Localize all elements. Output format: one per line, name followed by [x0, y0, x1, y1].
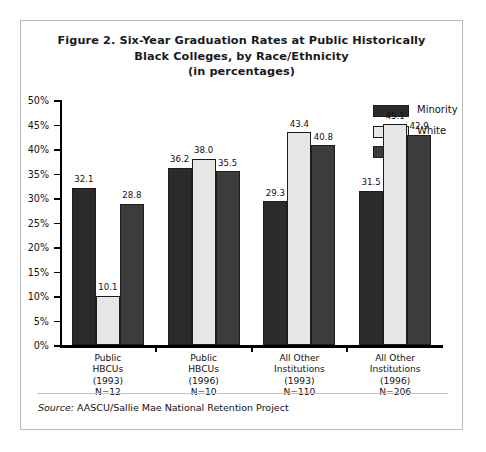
- y-tick-mark: [54, 296, 60, 298]
- y-tick-mark: [54, 247, 60, 249]
- x-category-line: All Other: [347, 353, 443, 364]
- y-tick-label: 0%: [34, 340, 49, 351]
- source-divider: [37, 393, 448, 394]
- bar-group: 31.545.142.9: [359, 100, 431, 345]
- bar-value-label: 45.1: [386, 111, 405, 121]
- x-category-line: Public: [156, 353, 252, 364]
- x-axis-separator: [155, 345, 157, 352]
- plot-area: 0%5%10%15%20%25%30%35%40%45%50% 32.110.1…: [60, 100, 443, 345]
- bar-all[interactable]: 42.9: [407, 135, 431, 345]
- x-category-line: Institutions: [347, 364, 443, 375]
- y-axis-line: [60, 100, 62, 345]
- x-category-line: Public: [60, 353, 156, 364]
- y-tick-mark: [54, 321, 60, 323]
- bar-value-label: 35.5: [218, 158, 237, 168]
- bar-value-label: 28.8: [122, 190, 141, 200]
- bar-minority[interactable]: 32.1: [72, 188, 96, 345]
- title-line-1: Figure 2. Six-Year Graduation Rates at P…: [21, 33, 462, 49]
- y-tick-mark: [54, 125, 60, 127]
- source-text: AASCU/Sallie Mae National Retention Proj…: [77, 402, 289, 413]
- y-tick-label: 45%: [28, 119, 49, 130]
- bar-minority[interactable]: 36.2: [168, 168, 192, 345]
- source-prefix: Source:: [38, 402, 74, 413]
- x-category-line: (1996): [156, 376, 252, 387]
- y-tick-mark: [54, 345, 60, 347]
- bar-all[interactable]: 40.8: [311, 145, 335, 345]
- x-category-line: HBCUs: [156, 364, 252, 375]
- bar-value-label: 31.5: [362, 177, 381, 187]
- x-category-label: All OtherInstitutions(1996)N=206: [347, 353, 443, 399]
- y-tick-label: 40%: [28, 144, 49, 155]
- y-tick-label: 10%: [28, 291, 49, 302]
- bar-group: 32.110.128.8: [72, 100, 144, 345]
- bar-value-label: 42.9: [410, 121, 429, 131]
- bar-value-label: 29.3: [266, 188, 285, 198]
- bar-value-label: 10.1: [98, 282, 117, 292]
- y-tick-mark: [54, 149, 60, 151]
- x-axis-separator: [251, 345, 253, 352]
- bar-group: 36.238.035.5: [168, 100, 240, 345]
- y-tick-mark: [54, 100, 60, 102]
- x-category-label: PublicHBCUs(1996)N=10: [156, 353, 252, 399]
- bar-all[interactable]: 28.8: [120, 204, 144, 345]
- figure-frame: Figure 2. Six-Year Graduation Rates at P…: [20, 20, 463, 430]
- bar-white[interactable]: 10.1: [96, 296, 120, 345]
- y-tick-mark: [54, 174, 60, 176]
- x-category-line: (1993): [60, 376, 156, 387]
- title-line-3: (in percentages): [21, 64, 462, 80]
- bar-all[interactable]: 35.5: [216, 171, 240, 345]
- figure-title: Figure 2. Six-Year Graduation Rates at P…: [21, 33, 462, 80]
- bar-value-label: 32.1: [74, 174, 93, 184]
- bar-value-label: 43.4: [290, 119, 309, 129]
- bar-value-label: 40.8: [314, 132, 333, 142]
- bar-minority[interactable]: 31.5: [359, 191, 383, 345]
- x-category-line: HBCUs: [60, 364, 156, 375]
- bar-white[interactable]: 43.4: [287, 132, 311, 345]
- x-axis-category-labels: PublicHBCUs(1993)N=12PublicHBCUs(1996)N=…: [60, 353, 443, 405]
- bar-value-label: 38.0: [194, 145, 213, 155]
- y-tick-label: 30%: [28, 193, 49, 204]
- bar-white[interactable]: 38.0: [192, 159, 216, 345]
- y-tick-label: 35%: [28, 168, 49, 179]
- bar-value-label: 36.2: [170, 154, 189, 164]
- source-note: Source: AASCU/Sallie Mae National Retent…: [38, 402, 289, 413]
- y-tick-mark: [54, 198, 60, 200]
- x-axis-separator: [346, 345, 348, 352]
- x-category-label: PublicHBCUs(1993)N=12: [60, 353, 156, 399]
- y-tick-label: 5%: [34, 315, 49, 326]
- x-category-line: All Other: [252, 353, 348, 364]
- y-tick-label: 15%: [28, 266, 49, 277]
- x-category-label: All OtherInstitutions(1993)N=110: [252, 353, 348, 399]
- bar-white[interactable]: 45.1: [383, 124, 407, 345]
- y-tick-mark: [54, 272, 60, 274]
- bar-group: 29.343.440.8: [263, 100, 335, 345]
- y-tick-mark: [54, 223, 60, 225]
- y-tick-label: 20%: [28, 242, 49, 253]
- bar-minority[interactable]: 29.3: [263, 201, 287, 345]
- y-tick-label: 25%: [28, 217, 49, 228]
- y-tick-label: 50%: [28, 95, 49, 106]
- x-category-line: Institutions: [252, 364, 348, 375]
- x-category-line: (1993): [252, 376, 348, 387]
- x-category-line: (1996): [347, 376, 443, 387]
- title-line-2: Black Colleges, by Race/Ethnicity: [21, 49, 462, 65]
